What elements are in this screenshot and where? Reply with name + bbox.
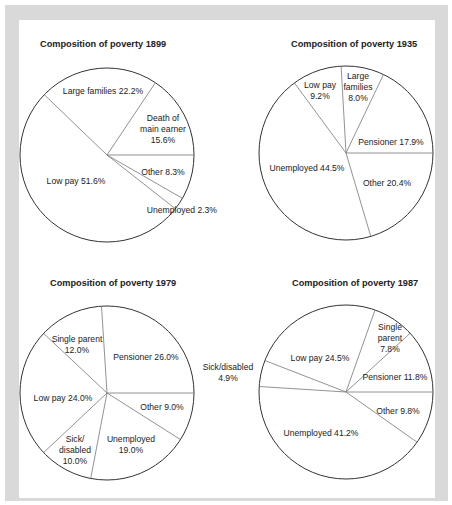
- pie-chart-1935: Composition of poverty 1935 Pensioner 17…: [259, 39, 433, 240]
- slice-label: Low pay 24.5%: [291, 353, 350, 363]
- chart-title: Composition of poverty 1987: [292, 278, 418, 288]
- slice-label: Pensioner 17.9%: [358, 137, 424, 147]
- slice-label: Unemployed 2.3%: [147, 205, 218, 215]
- pie-charts: Composition of poverty 1899 Death ofmain…: [0, 0, 452, 505]
- slice-label: Pensioner 11.8%: [363, 372, 428, 382]
- slice-label: Other 9.0%: [140, 402, 184, 412]
- slice-label: Other 20.4%: [363, 178, 412, 188]
- chart-title: Composition of poverty 1899: [40, 39, 166, 49]
- slice-label: Low pay 24.0%: [34, 393, 93, 403]
- pie-chart-1979: Composition of poverty 1979 Single paren…: [20, 278, 194, 480]
- slice-label: Other 8.3%: [141, 167, 185, 177]
- pie-chart-1987: Composition of poverty 1987 Singleparent…: [203, 278, 433, 479]
- slice-label: Unemployed 41.2%: [283, 428, 358, 438]
- slice-label: Large families 22.2%: [63, 86, 144, 96]
- pie-chart-1899: Composition of poverty 1899 Death ofmain…: [20, 39, 217, 242]
- slice-label: Singleparent7.8%: [378, 322, 403, 354]
- slice-label: Sick/disabled4.9%: [203, 362, 254, 383]
- slice-label: Low pay 51.6%: [47, 176, 106, 186]
- slice-label: Unemployed 44.5%: [269, 163, 344, 173]
- slice-label: Other 9.8%: [376, 406, 420, 416]
- chart-title: Composition of poverty 1979: [50, 278, 176, 288]
- chart-title: Composition of poverty 1935: [291, 39, 417, 49]
- slice-label: Pensioner 26.0%: [113, 352, 179, 362]
